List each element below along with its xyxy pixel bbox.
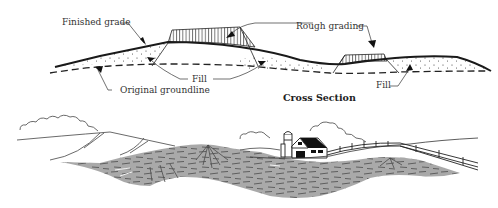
cloud-left xyxy=(20,115,98,131)
barn xyxy=(292,138,327,158)
cloud-right xyxy=(240,132,270,139)
grading-diagram: Finished grade Rough grading Fill Fill O… xyxy=(0,0,498,208)
landscape-illustration xyxy=(0,0,498,208)
silo xyxy=(281,132,292,158)
graded-earth-band xyxy=(60,144,460,198)
